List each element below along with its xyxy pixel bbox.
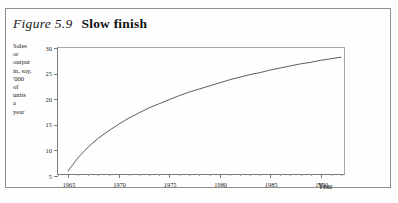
x-axis-minor-tick <box>311 174 312 176</box>
x-axis-tick: 1965 <box>68 174 69 178</box>
y-axis-tick-label: 10 <box>46 147 52 154</box>
x-axis-minor-tick <box>210 174 211 176</box>
x-axis-minor-tick <box>331 174 332 176</box>
y-axis-label-line: output <box>13 58 45 66</box>
x-axis-minor-tick <box>341 174 342 176</box>
x-axis-minor-tick <box>139 174 140 176</box>
x-axis-minor-tick <box>250 174 251 176</box>
x-axis-minor-tick <box>58 174 59 176</box>
y-axis-tick: 30 <box>54 48 58 49</box>
x-axis-minor-tick <box>260 174 261 176</box>
x-axis-minor-tick <box>230 174 231 176</box>
x-axis-minor-tick <box>78 174 79 176</box>
x-axis-minor-tick <box>98 174 99 176</box>
figure-caption: Figure 5.9Slow finish <box>13 14 147 32</box>
y-axis-tick: 5 <box>54 176 58 177</box>
y-axis-label-line: a <box>13 99 45 107</box>
y-axis-label-line: units <box>13 91 45 99</box>
x-axis-minor-tick <box>149 174 150 176</box>
y-axis-label-line: Sales <box>13 42 45 50</box>
y-axis-tick-label: 30 <box>46 45 52 52</box>
y-axis-tick: 20 <box>54 99 58 100</box>
y-axis-tick: 10 <box>54 150 58 151</box>
x-axis-minor-tick <box>290 174 291 176</box>
x-axis-tick: 1980 <box>220 174 221 178</box>
y-axis-label-line: in, say, <box>13 67 45 75</box>
series-curve <box>58 48 346 176</box>
x-axis-tick: 1990 <box>321 174 322 178</box>
plot-area: 30252015105196519701975198019851990 <box>57 47 345 175</box>
x-axis-tick-label: 1980 <box>214 181 227 188</box>
figure-screenshot: Figure 5.9Slow finish Salesoroutputin, s… <box>0 0 398 203</box>
page-title: Slow finish <box>82 16 148 31</box>
x-axis-minor-tick <box>240 174 241 176</box>
x-axis-minor-tick <box>129 174 130 176</box>
x-axis-minor-tick <box>179 174 180 176</box>
y-axis-label-line: or <box>13 50 45 58</box>
x-axis-tick-label: 1970 <box>113 181 126 188</box>
x-axis-minor-tick <box>189 174 190 176</box>
x-axis-minor-tick <box>159 174 160 176</box>
x-axis-minor-tick <box>280 174 281 176</box>
x-axis-tick-label: 1965 <box>63 181 76 188</box>
y-axis-tick-label: 25 <box>46 70 52 77</box>
y-axis-tick: 15 <box>54 125 58 126</box>
x-axis-tick-label: 1975 <box>164 181 177 188</box>
y-axis-label-line: of <box>13 83 45 91</box>
x-axis-minor-tick <box>109 174 110 176</box>
x-axis-label: Year <box>318 182 333 191</box>
x-axis-minor-tick <box>301 174 302 176</box>
y-axis-tick: 25 <box>54 74 58 75</box>
x-axis-minor-tick <box>199 174 200 176</box>
x-axis-tick: 1975 <box>169 174 170 178</box>
y-axis-tick-label: 5 <box>49 173 52 180</box>
x-axis-tick-label: 1985 <box>265 181 278 188</box>
x-axis-tick: 1985 <box>270 174 271 178</box>
y-axis-label: Salesoroutputin, say,'000ofunitsayear <box>13 42 45 116</box>
y-axis-label-line: year <box>13 108 45 116</box>
y-axis-tick-label: 20 <box>46 96 52 103</box>
y-axis-tick-label: 15 <box>46 121 52 128</box>
figure-number: Figure 5.9 <box>13 16 73 31</box>
x-axis-minor-tick <box>88 174 89 176</box>
y-axis-label-line: '000 <box>13 75 45 83</box>
x-axis-tick: 1970 <box>119 174 120 178</box>
